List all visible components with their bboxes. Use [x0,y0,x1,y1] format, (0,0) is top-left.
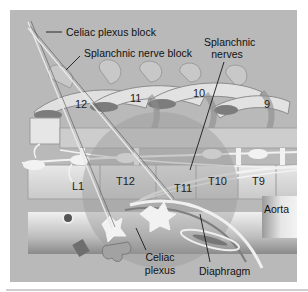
anatomical-figure: Celiac plexus block Splanchnic nerve blo… [0,0,308,292]
label-diaphragm: Diaphragm [199,265,250,277]
rib-label-9: 9 [264,98,270,110]
label-aorta: Aorta [264,203,289,215]
bottom-divider [6,289,308,291]
vertebra-label-t11: T11 [174,182,192,194]
vertebra-label-t12: T12 [116,175,135,187]
label-splanchnic-nerve-block: Splanchnic nerve block [84,47,192,59]
vertebra-label-l1: L1 [72,180,84,192]
rib-label-11: 11 [130,92,141,104]
label-celiac-plexus-line1: Celiac [140,251,180,263]
label-celiac-plexus-block: Celiac plexus block [66,26,156,38]
vertebra-label-t9: T9 [252,175,265,187]
anatomy-drawing [0,0,308,292]
label-splanchnic-nerves-line1: Splanchnic [204,36,250,48]
rib-label-10: 10 [193,87,205,99]
label-celiac-plexus-line2: plexus [140,264,180,276]
label-splanchnic-nerves-line2: nerves [204,48,250,60]
vertebra-label-t10: T10 [208,175,227,187]
rib-label-12: 12 [75,98,87,110]
